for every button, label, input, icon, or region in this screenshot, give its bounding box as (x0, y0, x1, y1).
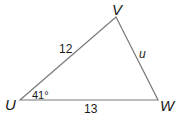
triangle-diagram: V U W 12 u 13 41° (0, 0, 188, 124)
side-label-uv: 12 (59, 42, 73, 56)
side-label-vw: u (139, 47, 146, 61)
side-label-uw: 13 (84, 102, 98, 116)
angle-label-u: 41° (32, 89, 49, 101)
vertex-label-w: W (160, 97, 176, 114)
triangle-uvw (20, 17, 158, 100)
vertex-label-u: U (5, 96, 16, 113)
vertex-label-v: V (112, 1, 124, 18)
